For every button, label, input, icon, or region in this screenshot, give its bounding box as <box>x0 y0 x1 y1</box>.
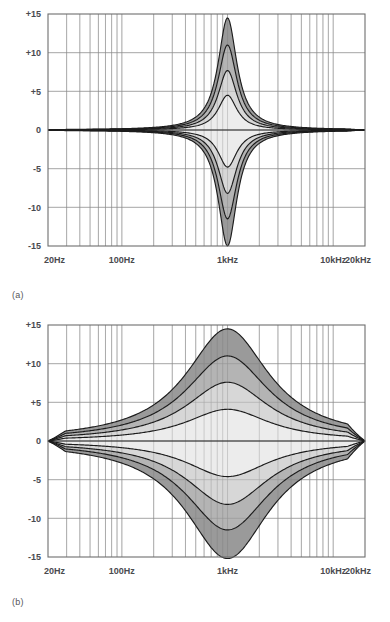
panel-label-b: (b) <box>12 597 24 607</box>
figure-b: +15+10+50-5-10-1520Hz100Hz1kHz10kHz20kHz… <box>0 311 390 622</box>
svg-text:1kHz: 1kHz <box>217 255 239 265</box>
svg-text:20kHz: 20kHz <box>345 255 372 265</box>
chart-a-svg: +15+10+50-5-10-1520Hz100Hz1kHz10kHz20kHz <box>0 0 390 268</box>
svg-text:+15: +15 <box>26 320 41 330</box>
svg-text:0: 0 <box>36 436 41 446</box>
svg-text:1kHz: 1kHz <box>217 566 239 576</box>
panel-label-a: (a) <box>12 290 24 300</box>
svg-text:+15: +15 <box>26 9 41 19</box>
svg-text:100Hz: 100Hz <box>109 255 136 265</box>
svg-text:20Hz: 20Hz <box>44 566 66 576</box>
svg-text:-5: -5 <box>33 164 41 174</box>
svg-text:10kHz: 10kHz <box>320 566 347 576</box>
svg-text:+5: +5 <box>31 398 41 408</box>
svg-text:+10: +10 <box>26 359 41 369</box>
svg-text:20Hz: 20Hz <box>44 255 66 265</box>
svg-text:20kHz: 20kHz <box>345 566 372 576</box>
svg-text:100Hz: 100Hz <box>109 566 136 576</box>
svg-text:+10: +10 <box>26 48 41 58</box>
svg-text:-10: -10 <box>28 514 41 524</box>
svg-text:-5: -5 <box>33 475 41 485</box>
svg-text:-15: -15 <box>28 552 41 562</box>
svg-text:10kHz: 10kHz <box>320 255 347 265</box>
svg-text:0: 0 <box>36 125 41 135</box>
figure-a: +15+10+50-5-10-1520Hz100Hz1kHz10kHz20kHz… <box>0 0 390 310</box>
svg-text:-10: -10 <box>28 203 41 213</box>
svg-text:+5: +5 <box>31 87 41 97</box>
chart-b-svg: +15+10+50-5-10-1520Hz100Hz1kHz10kHz20kHz <box>0 311 390 579</box>
chart-b-plot-area: +15+10+50-5-10-1520Hz100Hz1kHz10kHz20kHz <box>0 311 390 576</box>
svg-text:-15: -15 <box>28 241 41 251</box>
chart-a-plot-area: +15+10+50-5-10-1520Hz100Hz1kHz10kHz20kHz <box>0 0 390 265</box>
